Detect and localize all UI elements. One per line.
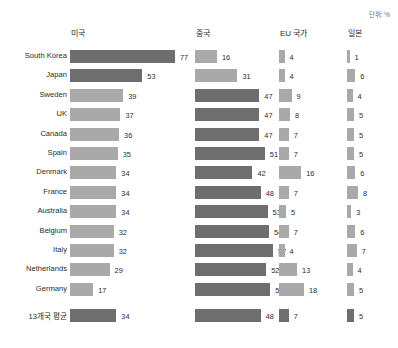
bar-eu [279, 50, 285, 63]
bar-value-eu: 7 [294, 312, 298, 321]
bar-group-jp: 5 [347, 108, 388, 121]
chart-row: South Korea771641 [0, 47, 398, 66]
bar-cn [195, 147, 265, 160]
bar-value-jp: 4 [358, 266, 362, 275]
bar-value-eu: 13 [302, 266, 310, 275]
bar-value-us: 29 [115, 266, 123, 275]
bar-jp [347, 283, 354, 296]
bar-value-cn: 48 [266, 312, 274, 321]
chart-row: Australia345353 [0, 202, 398, 221]
bar-group-us: 32 [70, 225, 205, 238]
bar-cn [195, 166, 252, 179]
bar-group-us: 34 [70, 166, 205, 179]
bar-us [70, 225, 114, 238]
bar-eu [279, 147, 289, 160]
bar-us [70, 309, 116, 322]
bar-us [70, 108, 120, 121]
bar-group-jp: 1 [347, 50, 388, 63]
bar-us [70, 69, 142, 82]
bar-eu [279, 263, 297, 276]
bar-cn [195, 225, 269, 238]
bar-group-us: 37 [70, 108, 205, 121]
bar-jp [347, 147, 354, 160]
row-label: South Korea [0, 51, 67, 60]
column-header-jp: 일본 [348, 27, 362, 38]
bar-group-jp: 4 [347, 89, 388, 102]
bar-value-cn: 51 [270, 150, 278, 159]
bar-group-jp: 6 [347, 225, 388, 238]
bar-eu [279, 89, 292, 102]
bar-group-eu: 4 [279, 50, 334, 63]
row-label: Denmark [0, 167, 67, 176]
bar-cn [195, 244, 273, 257]
bar-cn [195, 263, 266, 276]
bar-us [70, 128, 119, 141]
bar-jp [347, 50, 350, 63]
chart-row: Belgium325476 [0, 222, 398, 241]
bar-value-us: 53 [147, 72, 155, 81]
bar-group-eu: 7 [279, 225, 334, 238]
bar-value-us: 32 [119, 247, 127, 256]
bar-group-eu: 16 [279, 166, 334, 179]
bar-group-eu: 13 [279, 263, 334, 276]
bar-group-eu: 7 [279, 147, 334, 160]
bar-cn [195, 309, 261, 322]
bar-value-jp: 4 [358, 92, 362, 101]
bar-group-eu: 5 [279, 205, 334, 218]
bar-group-us: 29 [70, 263, 205, 276]
bar-value-jp: 5 [359, 150, 363, 159]
bar-group-eu: 9 [279, 89, 334, 102]
bar-value-eu: 7 [294, 228, 298, 237]
bar-jp [347, 263, 353, 276]
bar-group-us: 39 [70, 89, 205, 102]
bar-value-eu: 4 [290, 72, 294, 81]
bar-group-us: 34 [70, 186, 205, 199]
bar-value-us: 34 [121, 169, 129, 178]
column-header-us: 미국 [71, 27, 85, 38]
bar-group-eu: 7 [279, 186, 334, 199]
chart-row: Germany1755185 [0, 280, 398, 299]
column-header-row: 미국 중국 EU 국가 일본 [0, 27, 398, 41]
bar-jp [347, 225, 355, 238]
bar-jp [347, 128, 354, 141]
unit-label: 단위: % [369, 9, 390, 19]
bar-eu [279, 244, 285, 257]
bar-us [70, 147, 118, 160]
bar-group-jp: 6 [347, 69, 388, 82]
grouped-bar-chart: 단위: % 미국 중국 EU 국가 일본 South Korea771641Ja… [0, 0, 398, 348]
bar-jp [347, 186, 358, 199]
bar-us [70, 166, 116, 179]
row-label: France [0, 187, 67, 196]
bar-value-jp: 8 [363, 189, 367, 198]
bar-cn [195, 89, 259, 102]
bar-value-us: 17 [98, 286, 106, 295]
row-label: Sweden [0, 90, 67, 99]
bar-value-cn: 47 [264, 111, 272, 120]
bar-eu [279, 166, 301, 179]
bar-value-jp: 7 [362, 247, 366, 256]
bar-value-eu: 9 [297, 92, 301, 101]
bar-value-us: 34 [121, 189, 129, 198]
bar-eu [279, 205, 286, 218]
row-label: Japan [0, 70, 67, 79]
bar-us [70, 89, 123, 102]
bar-group-us: 36 [70, 128, 205, 141]
bar-group-jp: 8 [347, 186, 388, 199]
bar-cn [195, 128, 259, 141]
bar-eu [279, 283, 304, 296]
row-label: 13개국 평균 [0, 310, 67, 321]
bar-jp [347, 244, 357, 257]
bar-value-eu: 7 [294, 150, 298, 159]
chart-row: Spain355175 [0, 144, 398, 163]
bar-group-us: 17 [70, 283, 205, 296]
bar-value-cn: 42 [257, 169, 265, 178]
bar-group-us: 77 [70, 50, 205, 63]
bar-value-jp: 6 [360, 72, 364, 81]
bar-value-jp: 1 [355, 53, 359, 62]
bar-cn [195, 50, 217, 63]
bar-eu [279, 309, 289, 322]
row-label: Spain [0, 148, 67, 157]
bar-value-us: 34 [121, 312, 129, 321]
chart-row: France344878 [0, 183, 398, 202]
bar-cn [195, 205, 268, 218]
